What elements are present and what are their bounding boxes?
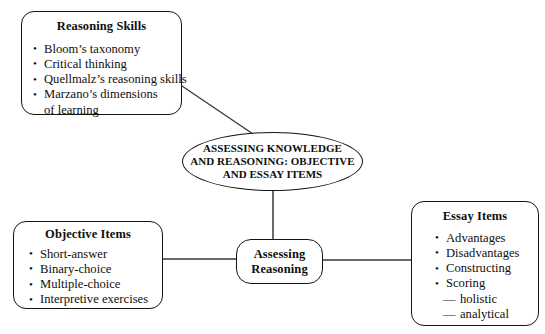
list-item: Critical thinking	[32, 57, 181, 72]
list-item: Marzano’s dimensions	[32, 87, 181, 102]
essay-items-box: Essay Items Advantages Disadvantages Con…	[411, 201, 539, 326]
reasoning-skills-box: Reasoning Skills Bloom’s taxonomy Critic…	[21, 11, 182, 115]
list-item-continuation: of learning	[32, 103, 181, 118]
objective-items-title: Objective Items	[14, 228, 162, 242]
list-item: Short-answer	[28, 247, 162, 262]
list-item: Disadvantages	[434, 246, 538, 261]
list-item: Binary-choice	[28, 262, 162, 277]
objective-items-list: Short-answer Binary-choice Multiple-choi…	[28, 247, 162, 308]
list-item: Interpretive exercises	[28, 292, 162, 307]
center-ellipse: ASSESSING KNOWLEDGE AND REASONING: OBJEC…	[182, 132, 363, 191]
list-item: Scoring	[434, 276, 538, 291]
reasoning-skills-list: Bloom’s taxonomy Critical thinking Quell…	[32, 42, 181, 118]
essay-items-title: Essay Items	[412, 210, 538, 224]
list-item: Bloom’s taxonomy	[32, 42, 181, 57]
sub-list-item: holistic	[434, 292, 538, 307]
assessing-reasoning-box: Assessing Reasoning	[236, 239, 323, 284]
objective-items-box: Objective Items Short-answer Binary-choi…	[13, 221, 163, 309]
essay-items-scoring-sublist: holistic analytical	[434, 292, 538, 322]
list-item: Multiple-choice	[28, 277, 162, 292]
center-ellipse-label: ASSESSING KNOWLEDGE AND REASONING: OBJEC…	[188, 142, 356, 182]
list-item: Quellmalz’s reasoning skills	[32, 72, 181, 87]
concept-map-diagram: Reasoning Skills Bloom’s taxonomy Critic…	[0, 0, 545, 334]
sub-list-item: analytical	[434, 307, 538, 322]
assessing-reasoning-label: Assessing Reasoning	[251, 247, 307, 277]
reasoning-skills-title: Reasoning Skills	[22, 20, 181, 34]
essay-items-list: Advantages Disadvantages Constructing Sc…	[434, 231, 538, 292]
list-item: Advantages	[434, 231, 538, 246]
list-item: Constructing	[434, 261, 538, 276]
